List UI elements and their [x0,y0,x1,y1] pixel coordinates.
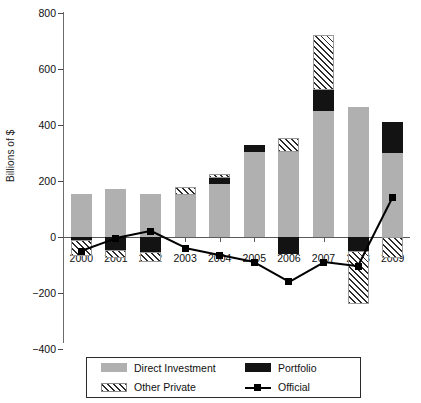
bar-segment [382,122,403,153]
legend-item-official: Official [237,381,362,393]
bar-segment [140,252,161,262]
legend-label-official: Official [278,381,310,393]
bar-segment [313,90,334,111]
legend-label-direct-investment: Direct Investment [134,362,216,374]
official-data-marker [147,228,154,235]
bar-segment [175,195,196,237]
legend-swatch-direct-investment [101,363,127,372]
bar-segment [244,145,265,152]
chart-legend: Direct Investment Portfolio Other Privat… [86,357,361,398]
bar-segment [105,250,126,258]
bar-segment [348,107,369,237]
bar-segment [278,237,299,254]
legend-swatch-official [245,383,271,392]
bar-segment [313,111,334,237]
bar-segment [209,184,230,237]
bar-segment [140,237,161,252]
bar-segment [175,187,196,195]
legend-item-portfolio: Portfolio [237,362,362,374]
official-data-marker [78,248,85,255]
official-data-marker [389,194,396,201]
official-line-segment [254,261,290,283]
legend-label-other-private: Other Private [134,381,196,393]
official-line-segment [288,261,324,283]
bar-segment [105,189,126,237]
bar-segment [244,152,265,237]
legend-item-other-private: Other Private [87,381,237,393]
bar-segment [71,194,92,237]
official-data-marker [182,245,189,252]
legend-label-portfolio: Portfolio [278,362,317,374]
official-data-marker [320,259,327,266]
official-line-segment [219,254,254,263]
bar-segment [313,35,334,90]
legend-swatch-portfolio [245,363,271,372]
official-line-segment [185,247,220,256]
bar-segment [209,178,230,184]
chart-figure: Billions of $ 8006004002000−200−400 2000… [0,0,421,403]
bar-segment [348,251,369,304]
legend-swatch-other-private [101,383,127,392]
bar-segment [278,138,299,152]
bar-segment [209,174,230,178]
official-data-marker [216,252,223,259]
official-data-marker [285,278,292,285]
legend-item-direct-investment: Direct Investment [87,362,237,374]
bar-segment [278,152,299,237]
official-data-marker [355,263,362,270]
plot-area [0,0,421,350]
official-data-marker [112,235,119,242]
bar-segment [382,237,403,258]
official-data-marker [251,259,258,266]
